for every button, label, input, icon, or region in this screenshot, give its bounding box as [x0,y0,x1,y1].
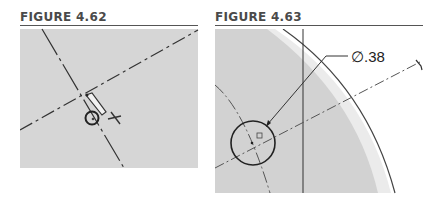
figure-4-63-drawing: ∅.38 [215,0,438,201]
figure-4-63: FIGURE 4.63 ∅.38 [215,0,438,201]
circle-center [251,142,254,145]
centerline-end-mark [416,60,422,70]
figure-4-62: FIGURE 4.62 [20,0,200,201]
dimension-text: ∅.38 [351,48,385,65]
panel-background [20,29,198,168]
figure-4-62-drawing [20,0,200,201]
